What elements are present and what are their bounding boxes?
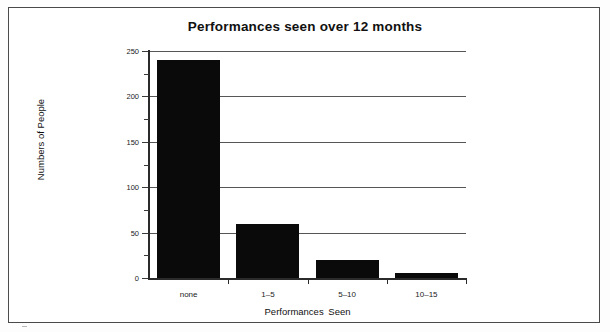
y-tick-label-250: 250 — [113, 47, 139, 56]
bar-5-10[interactable] — [316, 260, 379, 278]
x-tick-label-none: none — [149, 290, 228, 299]
y-tick-100 — [142, 187, 148, 188]
x-axis-title: Performances Seen — [149, 306, 466, 317]
x-tick-label-1-5: 1–5 — [228, 290, 307, 299]
y-tick-250 — [142, 51, 148, 52]
y-tick-label-50: 50 — [113, 229, 139, 238]
bar-group — [149, 51, 466, 278]
x-tick-3 — [387, 278, 388, 284]
chart-frame: Performances seen over 12 months 250 200… — [8, 7, 600, 323]
x-tick-2 — [308, 278, 309, 284]
y-tick-200 — [142, 96, 148, 97]
y-tick-label-0: 0 — [113, 274, 139, 283]
scan-speck — [22, 326, 27, 327]
x-tick-1 — [228, 278, 229, 284]
y-tick-label-150: 150 — [113, 138, 139, 147]
y-axis-title: Numbers of People — [35, 80, 46, 200]
y-tick-label-200: 200 — [113, 92, 139, 101]
bar-none[interactable] — [157, 60, 220, 278]
x-tick-4 — [466, 278, 467, 284]
y-tick-label-100: 100 — [113, 183, 139, 192]
y-tick-0 — [142, 278, 148, 279]
y-tick-50 — [142, 233, 148, 234]
x-tick-label-10-15: 10–15 — [387, 290, 466, 299]
chart-title: Performances seen over 12 months — [9, 19, 601, 34]
x-tick-label-5-10: 5–10 — [308, 290, 387, 299]
bar-10-15[interactable] — [395, 273, 458, 278]
scanned-page: Performances seen over 12 months 250 200… — [0, 0, 610, 332]
y-tick-150 — [142, 142, 148, 143]
bar-1-5[interactable] — [236, 224, 299, 278]
